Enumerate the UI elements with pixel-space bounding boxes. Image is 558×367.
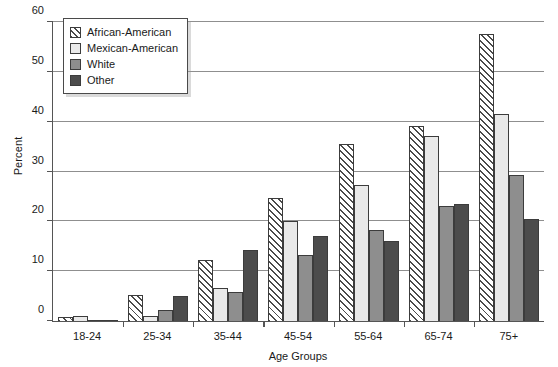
bars <box>474 22 544 321</box>
bar <box>384 241 399 321</box>
y-axis-tick-label: 30 <box>32 154 44 166</box>
bar <box>143 316 158 321</box>
y-axis-tick-label: 50 <box>32 54 44 66</box>
bar <box>509 175 524 322</box>
x-axis-tick <box>334 321 335 327</box>
bar <box>88 320 103 321</box>
legend-item-label: Other <box>87 74 115 86</box>
bar <box>243 250 258 321</box>
legend-swatch-icon <box>70 27 81 38</box>
bar-group <box>404 22 474 321</box>
bar <box>298 255 313 321</box>
bar <box>173 296 188 321</box>
x-axis-labels: 18-2425-3435-4445-5455-6465-7475+ <box>52 330 544 342</box>
bar-chart: Percent 0102030405060 18-2425-3435-4445-… <box>0 0 558 367</box>
bar <box>73 316 88 321</box>
bars <box>334 22 404 321</box>
x-axis-title: Age Groups <box>52 350 544 362</box>
y-axis-tick-label: 10 <box>32 253 44 265</box>
x-axis-tick-label: 18-24 <box>52 330 122 342</box>
bar-group <box>193 22 263 321</box>
bar <box>339 144 354 321</box>
x-axis-tick-label: 45-54 <box>263 330 333 342</box>
bar <box>479 34 494 321</box>
bar <box>494 114 509 321</box>
y-axis-tick-label: 60 <box>32 4 44 16</box>
x-axis-tick-label: 25-34 <box>122 330 192 342</box>
bar-group <box>263 22 333 321</box>
bar <box>424 136 439 321</box>
legend-item: Mexican-American <box>70 40 178 56</box>
legend-item-label: African-American <box>87 26 171 38</box>
bar <box>213 288 228 321</box>
legend: African-AmericanMexican-AmericanWhiteOth… <box>63 18 188 94</box>
legend-item: White <box>70 56 178 72</box>
x-axis-tick <box>123 321 124 327</box>
x-axis-tick-label: 65-74 <box>403 330 473 342</box>
legend-swatch-icon <box>70 75 81 86</box>
bar <box>128 295 143 321</box>
bar <box>409 126 424 321</box>
bars <box>404 22 474 321</box>
legend-item-label: White <box>87 58 115 70</box>
bar <box>198 260 213 321</box>
bar <box>158 310 173 321</box>
bar-group <box>334 22 404 321</box>
bar <box>283 221 298 321</box>
legend-swatch-icon <box>70 59 81 70</box>
x-axis-tick <box>474 321 475 327</box>
x-axis-tick-label: 75+ <box>474 330 544 342</box>
y-axis-tick-label: 40 <box>32 104 44 116</box>
x-axis-tick <box>193 321 194 327</box>
legend-item: Other <box>70 72 178 88</box>
legend-item: African-American <box>70 24 178 40</box>
bar <box>369 230 384 321</box>
bar <box>103 320 118 321</box>
y-axis-tick-label: 0 <box>38 303 44 315</box>
bar <box>454 204 469 321</box>
bar-group <box>474 22 544 321</box>
y-axis-title: Percent <box>12 116 24 196</box>
y-axis-tick-label: 20 <box>32 203 44 215</box>
legend-swatch-icon <box>70 43 81 54</box>
x-axis-tick <box>263 321 264 327</box>
bar <box>439 206 454 321</box>
bar <box>524 219 539 321</box>
bar <box>354 185 369 321</box>
x-axis-tick-label: 35-44 <box>193 330 263 342</box>
bars <box>193 22 263 321</box>
bar <box>268 198 283 321</box>
legend-item-label: Mexican-American <box>87 42 178 54</box>
bars <box>263 22 333 321</box>
x-axis-tick <box>404 321 405 327</box>
bar <box>228 292 243 321</box>
bar <box>313 236 328 321</box>
bar <box>58 317 73 321</box>
x-axis-tick-label: 55-64 <box>333 330 403 342</box>
